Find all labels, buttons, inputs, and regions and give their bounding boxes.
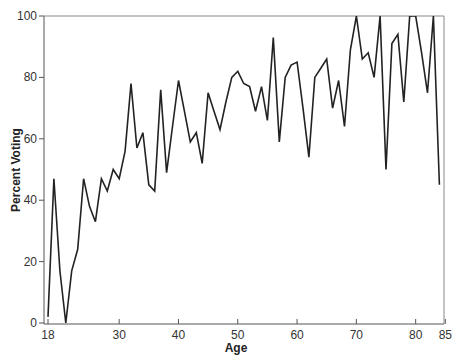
chart-svg: 020406080100 1830405060708085 Age Percen… [0, 0, 458, 360]
x-tick-label: 30 [112, 328, 126, 342]
x-axis-title: Age [225, 341, 248, 355]
x-tick-label: 18 [41, 328, 55, 342]
x-tick-label: 60 [290, 328, 304, 342]
plot-frame [44, 16, 444, 324]
x-tick-label: 40 [172, 328, 186, 342]
x-tick-label: 70 [350, 328, 364, 342]
y-tick-label: 20 [24, 255, 38, 269]
y-tick-label: 60 [24, 132, 38, 146]
x-tick-label: 85 [439, 328, 453, 342]
percent-voting-line [48, 16, 439, 323]
y-tick-label: 0 [30, 316, 37, 330]
x-tick-label: 50 [231, 328, 245, 342]
y-axis-title: Percent Voting [9, 128, 23, 212]
x-tick-label: 80 [409, 328, 423, 342]
x-axis-ticks: 1830405060708085 [41, 319, 452, 342]
line-chart: 020406080100 1830405060708085 Age Percen… [0, 0, 458, 360]
y-tick-label: 100 [17, 9, 37, 23]
y-tick-label: 40 [24, 193, 38, 207]
y-tick-label: 80 [24, 70, 38, 84]
